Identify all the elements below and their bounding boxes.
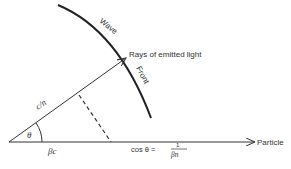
formula-lhs: cos θ = (131, 145, 156, 154)
rays-label: Rays of emitted light (129, 50, 202, 59)
beta-c-label: βc (47, 146, 56, 156)
cherenkov-diagram: Wave Front Rays of emitted light c/n θ β… (0, 0, 291, 169)
ray-length-label: c/n (33, 97, 48, 112)
formula-numerator: 1 (176, 142, 180, 148)
particle-label: Particle (257, 138, 284, 147)
front-label: Front (134, 65, 151, 86)
angle-label: θ (27, 130, 32, 140)
angle-arc (36, 123, 42, 142)
dashed-perpendicular (79, 95, 111, 142)
formula-denominator: βn (170, 150, 179, 159)
cos-theta-formula: cos θ = 1 βn (131, 142, 187, 159)
